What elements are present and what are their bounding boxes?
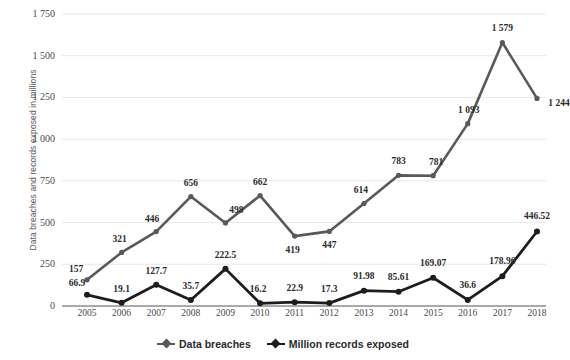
legend-item[interactable]: Data breaches xyxy=(157,337,251,350)
data-label-million-records-exposed: 222.5 xyxy=(215,250,236,260)
data-point-marker xyxy=(396,289,402,295)
y-axis-tick-label: 500 xyxy=(1,218,55,228)
y-axis-tick-label: 1 250 xyxy=(1,92,55,102)
data-point-marker xyxy=(222,266,228,272)
data-point-marker xyxy=(326,300,332,306)
data-label-data-breaches: 662 xyxy=(253,177,267,187)
data-label-data-breaches: 614 xyxy=(354,185,368,195)
plot-svg xyxy=(62,14,546,306)
data-point-marker xyxy=(396,173,401,178)
data-label-million-records-exposed: 169.07 xyxy=(420,258,446,268)
data-point-marker xyxy=(430,275,436,281)
data-label-million-records-exposed: 85.61 xyxy=(388,272,409,282)
data-label-million-records-exposed: 446.52 xyxy=(524,211,550,221)
x-axis-tick-label: 2018 xyxy=(517,308,557,318)
data-label-million-records-exposed: 36.6 xyxy=(459,280,476,290)
series-path xyxy=(87,43,537,280)
data-label-data-breaches: 498 xyxy=(229,205,243,215)
data-label-million-records-exposed: 22.9 xyxy=(286,283,303,293)
data-point-marker xyxy=(292,299,298,305)
data-label-data-breaches: 1 579 xyxy=(492,23,513,33)
data-label-million-records-exposed: 66.9 xyxy=(69,278,86,288)
data-label-data-breaches: 1 093 xyxy=(458,105,479,115)
data-label-million-records-exposed: 178.96 xyxy=(489,256,515,266)
chart-legend: Data breachesMillion records exposed xyxy=(0,336,566,350)
y-axis-tick-labels: 02505007501 0001 2501 5001 750 xyxy=(0,0,55,360)
data-point-marker xyxy=(431,173,436,178)
data-label-data-breaches: 781 xyxy=(429,157,443,167)
data-point-marker xyxy=(500,40,505,45)
y-axis-tick-label: 250 xyxy=(1,259,55,269)
data-point-marker xyxy=(257,193,262,198)
data-label-million-records-exposed: 17.3 xyxy=(321,284,338,294)
data-point-marker xyxy=(534,228,540,234)
legend-marker-icon xyxy=(267,339,285,348)
data-label-million-records-exposed: 35.7 xyxy=(183,281,200,291)
data-label-data-breaches: 447 xyxy=(322,240,336,250)
data-point-marker xyxy=(534,96,539,101)
data-label-data-breaches: 1 244 xyxy=(548,98,569,108)
legend-item-label: Million records exposed xyxy=(289,338,409,350)
data-label-million-records-exposed: 16.2 xyxy=(250,284,267,294)
legend-marker-icon xyxy=(157,339,175,348)
data-point-marker xyxy=(119,250,124,255)
data-point-marker xyxy=(154,229,159,234)
x-axis-tick-labels: 2005200620072008200920102011201220132014… xyxy=(0,308,566,326)
y-axis-tick-label: 750 xyxy=(1,176,55,186)
data-point-marker xyxy=(292,233,297,238)
y-axis-tick-label: 1 500 xyxy=(1,51,55,61)
data-point-marker xyxy=(188,194,193,199)
legend-item[interactable]: Million records exposed xyxy=(267,337,409,350)
data-point-marker xyxy=(327,229,332,234)
data-label-data-breaches: 321 xyxy=(112,234,126,244)
data-point-marker xyxy=(361,201,366,206)
series-line-data-breaches xyxy=(84,40,539,282)
data-label-data-breaches: 157 xyxy=(69,264,83,274)
data-point-marker xyxy=(465,297,471,303)
data-label-data-breaches: 656 xyxy=(184,178,198,188)
data-label-data-breaches: 419 xyxy=(286,245,300,255)
data-label-data-breaches: 783 xyxy=(391,156,405,166)
data-label-million-records-exposed: 91.98 xyxy=(353,271,374,281)
data-point-marker xyxy=(119,300,125,306)
gridlines xyxy=(62,14,546,306)
data-point-marker xyxy=(188,297,194,303)
plot-area xyxy=(62,14,546,306)
data-point-marker xyxy=(465,121,470,126)
data-point-marker xyxy=(84,292,90,298)
data-point-marker xyxy=(499,273,505,279)
data-point-marker xyxy=(223,220,228,225)
data-label-million-records-exposed: 127.7 xyxy=(146,266,167,276)
data-point-marker xyxy=(153,282,159,288)
data-point-marker xyxy=(257,300,263,306)
legend-item-label: Data breaches xyxy=(179,338,251,350)
y-axis-tick-label: 1 750 xyxy=(1,9,55,19)
data-point-marker xyxy=(361,288,367,294)
data-label-million-records-exposed: 19.1 xyxy=(113,284,130,294)
y-axis-tick-label: 1 000 xyxy=(1,134,55,144)
data-label-data-breaches: 446 xyxy=(145,214,159,224)
